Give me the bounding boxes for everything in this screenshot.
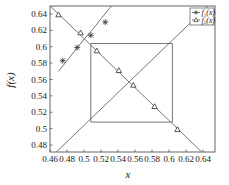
y-tick-label: 0.64 bbox=[31, 9, 47, 19]
y-tick-label: 0.5 bbox=[36, 124, 48, 134]
x-tick-label: 0.56 bbox=[127, 154, 143, 164]
chart: 0.460.480.50.520.540.560.580.60.620.64 0… bbox=[0, 0, 229, 185]
x-tick-label: 0.46 bbox=[42, 154, 58, 164]
x-tick-label: 0.52 bbox=[93, 154, 109, 164]
triangle-marker bbox=[78, 30, 83, 35]
series-line-cycle-box bbox=[91, 44, 173, 123]
y-tick-label: 0.54 bbox=[31, 91, 47, 101]
legend-label: f2(x) bbox=[202, 16, 216, 26]
y-axis-ticks: 0.480.50.520.540.560.580.60.620.64 bbox=[31, 9, 52, 150]
asterisk-marker bbox=[60, 58, 66, 64]
y-tick-label: 0.48 bbox=[31, 140, 47, 150]
x-tick-label: 0.54 bbox=[110, 154, 126, 164]
x-tick-label: 0.5 bbox=[78, 154, 90, 164]
x-tick-label: 0.6 bbox=[163, 154, 175, 164]
y-tick-label: 0.62 bbox=[31, 25, 47, 35]
y-tick-label: 0.52 bbox=[31, 107, 47, 117]
series-line-f1-x- bbox=[59, 3, 114, 71]
asterisk-marker bbox=[88, 32, 94, 38]
x-tick-label: 0.58 bbox=[144, 154, 160, 164]
y-axis-label: f(x) bbox=[4, 72, 17, 88]
x-axis-label: x bbox=[125, 168, 131, 180]
asterisk-marker bbox=[102, 19, 108, 25]
y-tick-label: 0.58 bbox=[31, 58, 47, 68]
y-tick-label: 0.6 bbox=[36, 42, 48, 52]
x-tick-label: 0.48 bbox=[59, 154, 75, 164]
series-line-identity-diagonal bbox=[55, 3, 211, 154]
legend: f1(x)f2(x) bbox=[190, 8, 215, 25]
asterisk-marker bbox=[74, 45, 80, 51]
y-tick-label: 0.56 bbox=[31, 75, 47, 85]
x-tick-label: 0.64 bbox=[195, 154, 211, 164]
x-tick-label: 0.62 bbox=[178, 154, 194, 164]
